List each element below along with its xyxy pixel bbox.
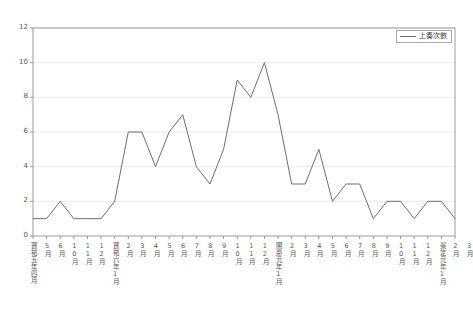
data-series-line xyxy=(33,63,455,219)
x-axis-tick-label: 2月 xyxy=(452,242,459,257)
x-axis-tick-label: 9月 xyxy=(220,242,227,257)
x-axis-tick-label: 2月 xyxy=(288,242,295,257)
x-axis-tick-label: 8月 xyxy=(370,242,377,257)
x-axis-tick-label: 3月 xyxy=(465,242,472,257)
x-axis-tick-label: 景定元年1月 xyxy=(438,242,445,285)
x-axis-tick-label: 2月 xyxy=(125,242,132,257)
x-axis-tick-label: 寶祐五年四月 xyxy=(30,242,37,284)
x-axis-tick-label: 10月 xyxy=(234,242,241,265)
x-axis-tick-label: 4月 xyxy=(152,242,159,257)
x-axis-tick-label: 9月 xyxy=(384,242,391,257)
grid-lines xyxy=(33,28,455,201)
x-axis-tick-label: 3月 xyxy=(302,242,309,257)
legend-line-swatch xyxy=(400,36,416,37)
x-axis-tick-label: 11月 xyxy=(84,242,91,265)
x-axis-tick-label: 6月 xyxy=(179,242,186,257)
x-axis-tick-label: 7月 xyxy=(356,242,363,257)
x-axis-tick-label: 6月 xyxy=(343,242,350,257)
x-axis-tick-label: 4月 xyxy=(315,242,322,257)
x-axis-tick-label: 10月 xyxy=(70,242,77,265)
y-axis-tick-label: 6 xyxy=(6,128,28,135)
y-axis-tick-label: 8 xyxy=(6,93,28,100)
y-axis-tick-label: 2 xyxy=(6,197,28,204)
y-axis-tick-label: 4 xyxy=(6,163,28,170)
y-axis-tick-label: 10 xyxy=(6,59,28,66)
x-axis-tick-label: 12月 xyxy=(261,242,268,265)
legend-label: 上奏次數 xyxy=(419,33,447,40)
x-axis-tick-label: 開慶元年1月 xyxy=(275,242,282,285)
x-axis-tick-label: 5月 xyxy=(43,242,50,257)
y-axis-tick-label: 12 xyxy=(6,24,28,31)
x-axis-tick-label: 11月 xyxy=(247,242,254,265)
x-axis-tick-label: 10月 xyxy=(397,242,404,265)
x-axis-tick-label: 寶祐六年1月 xyxy=(111,242,118,285)
x-axis-tick-label: 6月 xyxy=(57,242,64,257)
x-axis-tick-label: 8月 xyxy=(207,242,214,257)
x-axis-tick-label: 7月 xyxy=(193,242,200,257)
chart-legend: 上奏次數 xyxy=(396,30,452,43)
x-axis-tick-label: 3月 xyxy=(138,242,145,257)
x-axis-tick-label: 12月 xyxy=(424,242,431,265)
x-axis-tick-label: 5月 xyxy=(329,242,336,257)
x-axis-tick-label: 12月 xyxy=(98,242,105,265)
x-axis-tick-label: 5月 xyxy=(166,242,173,257)
x-axis-tick-label: 11月 xyxy=(411,242,418,265)
y-axis-tick-label: 0 xyxy=(6,232,28,239)
